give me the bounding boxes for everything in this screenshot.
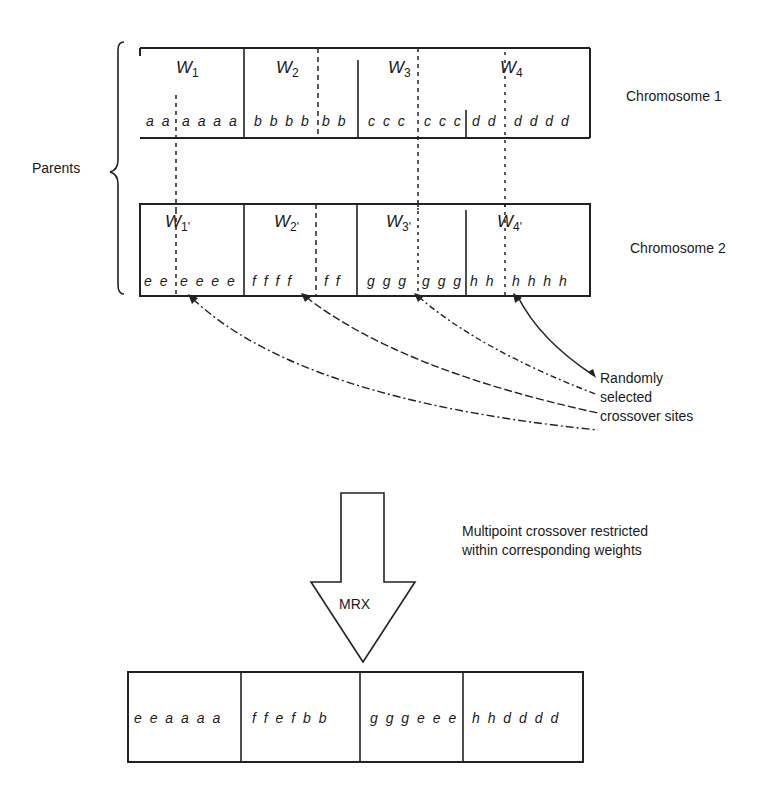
chr2-gene-seg: h h h h (512, 273, 569, 289)
chr1-gene-seg: c c c (368, 113, 407, 129)
chr2-gene-seg: f f (324, 273, 342, 289)
chr2-weight-1: W1' (165, 212, 190, 234)
chr1-weight-3: W3 (388, 58, 411, 80)
crossover-curve-2 (306, 297, 598, 413)
offspring-gene-seg: f f e f b b (252, 710, 328, 726)
chr2-weight-3: W3' (386, 212, 411, 234)
operator-description-line1: Multipoint crossover restricted (462, 523, 648, 539)
operator-description-line2: within corresponding weights (462, 542, 642, 558)
chr2-weight-2: W2' (274, 212, 299, 234)
chr1-gene-seg: a a (146, 113, 171, 129)
offspring-gene-seg: h h d d d d (472, 710, 560, 726)
chr2-gene-seg: g g g (367, 273, 408, 289)
chr1-weight-1: W1 (176, 58, 199, 80)
chr2-gene-seg: e e (144, 273, 169, 289)
chr2-gene-seg: g g g (422, 273, 463, 289)
chr1-gene-seg: b b (322, 113, 347, 129)
crossover-note-line2: selected (600, 389, 652, 405)
chr1-gene-seg: a a a a (182, 113, 239, 129)
crossover-curve-4 (518, 297, 593, 375)
crossover-curve-3 (419, 297, 598, 395)
chr1-gene-seg: d d (472, 113, 497, 129)
chr2-gene-seg: f f f f (252, 273, 293, 289)
chr1-weight-2: W2 (276, 58, 299, 80)
mrx-arrow (311, 493, 415, 662)
crossover-curve-1 (193, 299, 598, 430)
offspring-gene-seg: e e a a a a (134, 710, 222, 726)
crossover-note-line1: Randomly (600, 370, 663, 386)
parents-brace (110, 42, 124, 294)
mrx-label: MRX (339, 596, 370, 612)
chr1-gene-seg: b b b b (254, 113, 311, 129)
chr1-gene-seg: c c c (424, 113, 463, 129)
chr2-gene-seg: e e e e (180, 273, 237, 289)
offspring-gene-seg: g g g e e e (370, 710, 458, 726)
crossover-note-line3: crossover sites (600, 408, 693, 424)
chromosome1-label: Chromosome 1 (626, 88, 722, 104)
chr2-weight-4: W4' (497, 212, 522, 234)
chromosome2-label: Chromosome 2 (630, 240, 726, 256)
chr2-gene-seg: h h (470, 273, 495, 289)
chr1-gene-seg: d d d d (514, 113, 571, 129)
parents-label: Parents (32, 160, 80, 176)
chr1-weight-4: W4 (500, 58, 523, 80)
